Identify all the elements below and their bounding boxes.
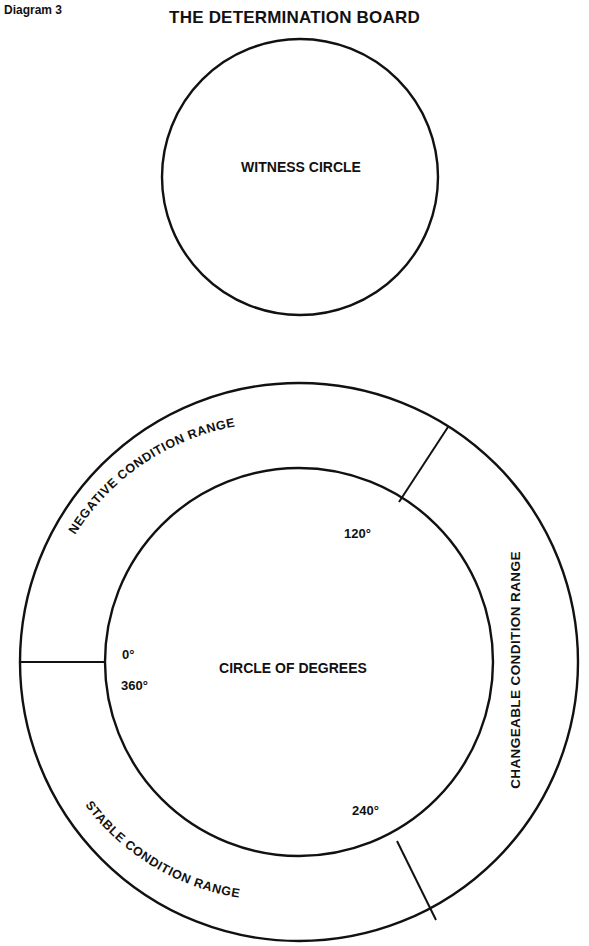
circle-of-degrees-label: CIRCLE OF DEGREES [219,660,367,676]
degree-mark-240: 240° [352,803,379,818]
stable-range-label: STABLE CONDITION RANGE [83,798,242,900]
determination-board-diagram: WITNESS CIRCLE CIRCLE OF DEGREES 0° 360°… [0,0,589,946]
degree-mark-0: 0° [122,647,134,662]
divider-240 [397,841,436,920]
divider-120 [399,427,448,502]
changeable-range-label: CHANGEABLE CONDITION RANGE [508,551,523,789]
witness-circle-label: WITNESS CIRCLE [241,159,361,175]
witness-circle [162,39,438,315]
degree-mark-120: 120° [344,526,371,541]
degree-mark-360: 360° [121,678,148,693]
